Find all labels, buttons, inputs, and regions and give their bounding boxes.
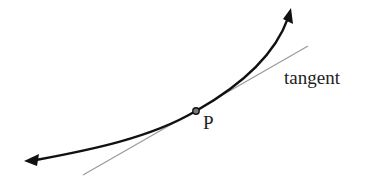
- arrowhead-top-icon: [283, 8, 293, 24]
- curve: [36, 18, 288, 160]
- arrowhead-left-icon: [24, 154, 39, 166]
- tangent-diagram: P tangent: [0, 0, 372, 183]
- point-p-label: P: [203, 112, 214, 133]
- point-p-marker: [193, 108, 199, 114]
- tangent-label: tangent: [284, 67, 341, 88]
